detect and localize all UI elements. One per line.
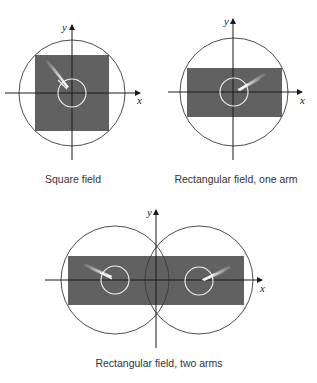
x-axis-label: x <box>136 94 142 106</box>
caption-rectangular-one-arm: Rectangular field, one arm <box>174 173 297 185</box>
diagram-canvas: x y Square field x y Rectangular field, … <box>0 0 317 383</box>
x-axis-label: x <box>259 282 265 294</box>
diagram-rectangular-two-arms: x y Rectangular field, two arms <box>45 206 265 369</box>
caption-square-field: Square field <box>45 173 101 185</box>
y-axis-label: y <box>146 206 152 218</box>
y-axis-label: y <box>223 15 229 27</box>
diagram-rectangular-one-arm: x y Rectangular field, one arm <box>168 15 305 185</box>
y-axis-label: y <box>61 21 67 33</box>
x-axis-label: x <box>299 94 305 106</box>
diagram-square-field: x y Square field <box>5 21 142 185</box>
caption-rectangular-two-arms: Rectangular field, two arms <box>95 357 222 369</box>
